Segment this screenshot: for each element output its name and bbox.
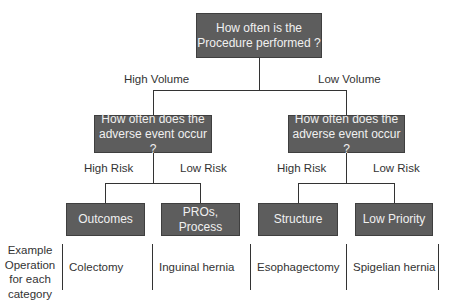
label-right-low-risk: Low Risk (373, 162, 420, 174)
example-label-line4: category (0, 287, 60, 302)
root-text-line1: How often is the (197, 21, 320, 36)
right-question-box: How often does the adverse event occur ? (288, 115, 405, 153)
root-text-line2: Procedure performed ? (197, 36, 320, 51)
category-outcomes-label: Outcomes (78, 212, 133, 227)
connector-right-risk-horizontal (298, 183, 395, 184)
root-question-box: How often is the Procedure performed ? (196, 13, 322, 58)
label-left-high-risk: High Risk (84, 162, 133, 174)
label-right-high-risk: High Risk (277, 162, 326, 174)
right-question-line1: How often does the (289, 112, 404, 127)
example-row-label: Example Operation for each category (0, 243, 60, 301)
example-label-line2: Operation (0, 258, 60, 273)
left-question-box: How often does the adverse event occur ? (94, 115, 212, 153)
connector-structure-down (298, 183, 299, 203)
divider-3 (250, 244, 251, 290)
right-question-line2: adverse event occur ? (289, 127, 404, 157)
example-colectomy: Colectomy (69, 261, 123, 273)
divider-2 (152, 244, 153, 290)
connector-pros-down (200, 183, 201, 203)
connector-right-q-down (346, 153, 347, 183)
category-outcomes-box: Outcomes (66, 203, 145, 236)
example-label-line1: Example (0, 243, 60, 258)
example-esophagectomy: Esophagectomy (257, 261, 339, 273)
category-pros-process-box: PROs, Process (161, 203, 240, 236)
category-low-priority-label: Low Priority (363, 212, 426, 227)
label-low-volume: Low Volume (318, 73, 381, 85)
label-left-low-risk: Low Risk (180, 162, 227, 174)
connector-outcomes-down (105, 183, 106, 203)
connector-root-down (259, 58, 260, 90)
left-question-line2: adverse event occur ? (95, 127, 211, 157)
divider-5 (438, 244, 439, 290)
divider-4 (346, 244, 347, 290)
category-structure-label: Structure (274, 212, 323, 227)
category-pros-process-label: PROs, Process (162, 205, 239, 235)
category-low-priority-box: Low Priority (355, 203, 433, 236)
label-high-volume: High Volume (124, 73, 189, 85)
example-inguinal-hernia: Inguinal hernia (159, 261, 234, 273)
divider-1 (62, 244, 63, 290)
connector-left-q-down (153, 153, 154, 183)
left-question-line1: How often does the (95, 112, 211, 127)
category-structure-box: Structure (258, 203, 338, 236)
connector-volume-horizontal (153, 90, 346, 91)
connector-lowpriority-down (394, 183, 395, 203)
example-spigelian-hernia: Spigelian hernia (353, 261, 435, 273)
connector-left-risk-horizontal (105, 183, 201, 184)
example-label-line3: for each (0, 272, 60, 287)
